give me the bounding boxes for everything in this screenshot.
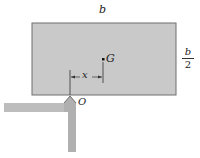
support-knife-edge	[64, 96, 76, 152]
cg-point-icon	[102, 58, 105, 61]
height-fraction-label: b 2	[182, 47, 194, 70]
height-denominator: 2	[182, 60, 194, 70]
center-of-gravity-label: G	[106, 53, 115, 64]
offset-x-label: x	[82, 70, 88, 80]
diagram-canvas: b b 2 G x O	[0, 0, 200, 158]
diagram-svg	[0, 0, 200, 158]
support-horizontal-arm	[4, 103, 70, 112]
height-numerator: b	[182, 47, 194, 57]
pivot-label: O	[78, 97, 86, 107]
width-label: b	[99, 4, 106, 15]
